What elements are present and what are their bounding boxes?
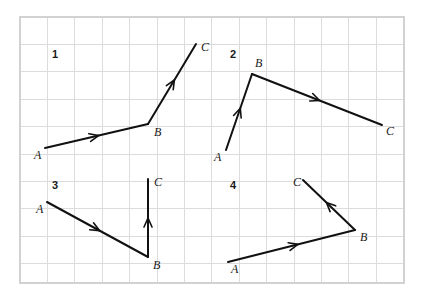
vertex-label-A: A: [33, 148, 42, 162]
vector-segment-BC: [148, 44, 196, 124]
vertex-label-C: C: [154, 175, 163, 189]
vector-segment-BC: [303, 180, 355, 230]
diagram-canvas: 1ABC2ABC3ABC4ABC: [0, 0, 424, 299]
vertex-label-B: B: [360, 230, 368, 244]
vector-segment-AB: [228, 230, 355, 262]
vertex-label-A: A: [35, 202, 44, 216]
vertex-label-C: C: [293, 175, 302, 189]
vector-segment-AB: [47, 202, 148, 257]
vertex-label-B: B: [153, 258, 161, 272]
vertex-label-A: A: [230, 262, 239, 276]
panel-number-label: 1: [52, 48, 58, 60]
vector-segment-AB: [45, 124, 148, 148]
panel-3: 3ABC: [35, 175, 163, 272]
vector-diagram-figure: 1ABC2ABC3ABC4ABC: [0, 0, 424, 299]
panel-2: 2ABC: [213, 48, 395, 164]
vertex-label-B: B: [255, 56, 263, 70]
panel-number-label: 2: [230, 48, 236, 60]
graph-paper-grid: [20, 17, 404, 283]
vertex-label-B: B: [154, 125, 162, 139]
panel-4: 4ABC: [228, 175, 368, 276]
panel-number-label: 3: [52, 179, 58, 191]
panel-number-label: 4: [230, 179, 237, 191]
vertex-label-C: C: [201, 40, 210, 54]
vector-panels: 1ABC2ABC3ABC4ABC: [33, 40, 395, 276]
vertex-label-C: C: [386, 124, 395, 138]
panel-1: 1ABC: [33, 40, 210, 162]
vertex-label-A: A: [213, 150, 222, 164]
